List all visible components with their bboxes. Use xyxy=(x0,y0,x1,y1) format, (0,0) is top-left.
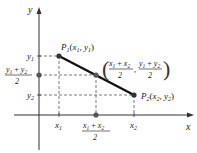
svg-text:,: , xyxy=(134,65,136,74)
y-axis-label: y xyxy=(27,4,33,15)
point-p1 xyxy=(56,53,61,58)
svg-text:x1 + x2: x1 + x2 xyxy=(108,59,130,69)
x2-tick-label: x2 xyxy=(129,120,137,131)
svg-text:2: 2 xyxy=(148,71,152,80)
p1-label: P1(x1, y1) xyxy=(60,42,94,53)
xmid-tick-label: x1 + x2 2 xyxy=(82,121,110,142)
ymid-tick-label: y1 + y2 2 xyxy=(5,65,32,86)
y-axis-arrow-icon xyxy=(37,7,42,14)
point-ymid-axis xyxy=(36,72,41,77)
point-p2 xyxy=(131,92,136,97)
svg-text:y1 + y2: y1 + y2 xyxy=(5,65,27,75)
p2-label: P2(x2, y2) xyxy=(140,91,174,102)
midpoint-label: ( x1 + x2 2 , y1 + y2 2 ) xyxy=(102,56,170,81)
x-axis-label: x xyxy=(185,121,191,132)
y1-tick-label: y1 xyxy=(26,51,34,62)
right-paren: ) xyxy=(163,56,170,81)
midpoint-diagram: y x P1(x1, y1) P2(x2, y2) ( x1 + x2 2 , … xyxy=(0,0,197,153)
x-axis-arrow-icon xyxy=(187,113,194,118)
svg-text:2: 2 xyxy=(15,77,19,86)
y2-tick-label: y2 xyxy=(26,90,34,101)
svg-text:y1 + y2: y1 + y2 xyxy=(138,59,160,69)
x1-tick-label: x1 xyxy=(54,120,62,131)
point-midpoint xyxy=(93,72,98,77)
point-xmid-axis xyxy=(93,112,98,117)
svg-text:2: 2 xyxy=(118,71,122,80)
svg-text:x1 + x2: x1 + x2 xyxy=(82,121,104,131)
svg-text:2: 2 xyxy=(93,133,97,142)
